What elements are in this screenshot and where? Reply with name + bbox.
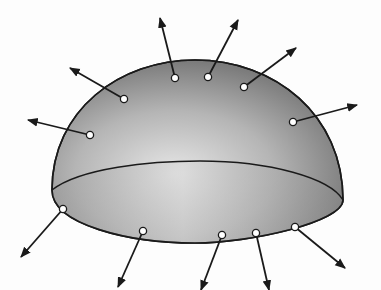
top-surface-point-1 xyxy=(86,131,93,138)
top-surface-point-6 xyxy=(289,118,296,125)
bottom-surface-point-3 xyxy=(218,231,225,238)
bottom-surface-point-4 xyxy=(252,229,259,236)
diagram-canvas xyxy=(0,0,381,290)
bottom-surface-point-2 xyxy=(139,227,146,234)
top-surface-point-2 xyxy=(120,95,127,102)
bottom-normal-vector-1-arrow-icon xyxy=(21,209,63,257)
bottom-normal-vector-4-arrow-icon xyxy=(256,233,269,290)
bottom-surface-point-1 xyxy=(59,205,66,212)
bottom-normal-vector-2-arrow-icon xyxy=(118,231,143,287)
hemisphere-diagram xyxy=(0,0,381,290)
top-surface-point-5 xyxy=(240,83,247,90)
top-surface-point-3 xyxy=(171,74,178,81)
bottom-normal-vector-5-arrow-icon xyxy=(295,227,345,268)
top-surface-point-4 xyxy=(204,73,211,80)
bottom-surface-point-5 xyxy=(291,223,298,230)
